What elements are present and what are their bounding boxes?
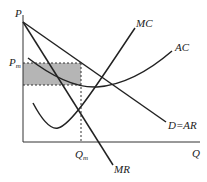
qm-label-main: Q	[75, 148, 83, 160]
x-axis-label: Q	[192, 148, 200, 159]
demand-label: D=AR	[168, 120, 197, 131]
mr-curve	[23, 22, 113, 165]
ac-label: AC	[175, 42, 189, 53]
qm-label-sub: m	[83, 154, 88, 162]
qm-label: Qm	[75, 149, 88, 162]
pm-label: Pm	[9, 57, 21, 70]
mr-label: MR	[114, 164, 130, 175]
mc-label: MC	[136, 18, 153, 29]
monopoly-diagram	[0, 0, 207, 182]
pm-label-main: P	[9, 56, 16, 68]
pm-label-sub: m	[16, 62, 21, 70]
y-axis-label: P	[15, 8, 22, 19]
